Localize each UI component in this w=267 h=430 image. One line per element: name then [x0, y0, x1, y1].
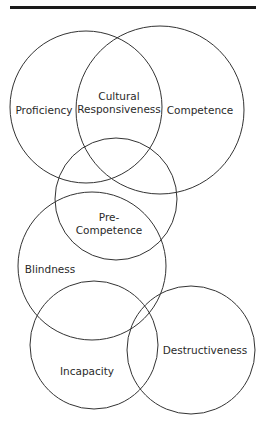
label-cultural-responsiveness: Cultural Responsiveness [77, 90, 161, 116]
label-incapacity: Incapacity [60, 365, 114, 378]
label-cultural-line1: Cultural [77, 90, 161, 103]
label-proficiency: Proficiency [15, 104, 72, 117]
label-pre-line1: Pre- [76, 211, 143, 224]
label-destructiveness: Destructiveness [163, 344, 248, 357]
label-competence: Competence [167, 104, 234, 117]
label-pre-line2: Competence [76, 224, 143, 237]
circle-pre-competence [55, 138, 177, 260]
circle-incapacity [30, 281, 158, 409]
label-cultural-line2: Responsiveness [77, 103, 161, 116]
label-pre-competence: Pre- Competence [76, 211, 143, 237]
diagram-canvas: Proficiency Cultural Responsiveness Comp… [0, 0, 267, 430]
label-blindness: Blindness [25, 263, 75, 276]
